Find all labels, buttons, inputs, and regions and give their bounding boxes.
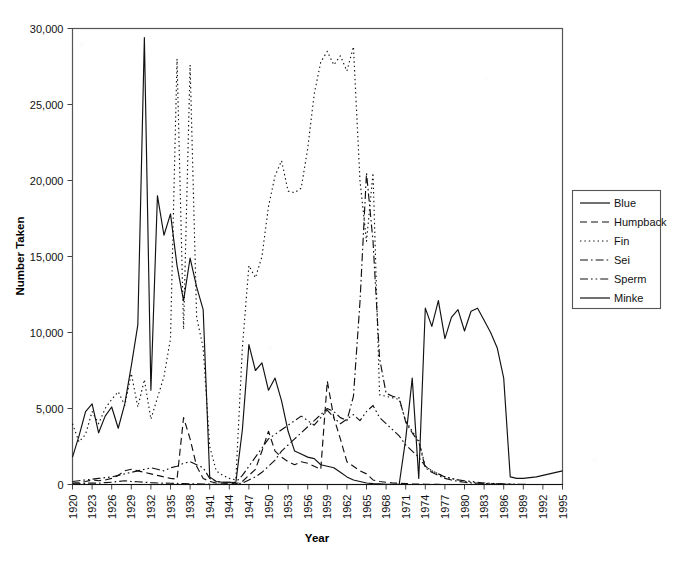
x-tick-label-20: 1980 (459, 495, 471, 519)
x-tick-label-14: 1962 (341, 495, 353, 519)
x-tick-label-24: 1992 (537, 495, 549, 519)
legend[interactable]: BlueHumpbackFinSeiSpermMinke (573, 191, 668, 309)
x-tick-label-15: 1965 (361, 495, 373, 519)
x-tick-label-21: 1983 (478, 495, 490, 519)
x-tick-label-25: 1995 (557, 495, 569, 519)
x-tick-label-19: 1977 (439, 495, 451, 519)
x-tick-label-7: 1941 (204, 495, 216, 519)
y-axis-ticks (68, 29, 73, 485)
x-tick-label-4: 1932 (145, 495, 157, 519)
x-axis-ticks (73, 485, 563, 490)
x-axis-title: Year (305, 532, 330, 544)
y-tick-label-0: 0 (57, 479, 63, 491)
x-tick-label-10: 1950 (263, 495, 275, 519)
legend-label-sei[interactable]: Sei (614, 254, 630, 266)
legend-label-minke[interactable]: Minke (614, 292, 643, 304)
x-tick-label-12: 1956 (302, 495, 314, 519)
series-line-minke (73, 301, 563, 485)
legend-label-fin[interactable]: Fin (614, 235, 629, 247)
x-tick-label-1: 1923 (86, 495, 98, 519)
x-tick-label-22: 1986 (498, 495, 510, 519)
y-tick-label-5: 25,000 (30, 99, 64, 111)
series-line-humpback (73, 381, 563, 484)
legend-label-blue[interactable]: Blue (614, 197, 636, 209)
x-tick-label-13: 1959 (321, 495, 333, 519)
legend-label-sperm[interactable]: Sperm (614, 273, 646, 285)
chart-canvas: 05,00010,00015,00020,00025,00030,000 192… (0, 0, 676, 561)
x-tick-label-5: 1935 (165, 495, 177, 519)
legend-label-humpback[interactable]: Humpback (614, 216, 667, 228)
y-axis-title: Number Taken (14, 216, 26, 295)
data-series-group (73, 38, 563, 485)
y-tick-label-3: 15,000 (30, 251, 64, 263)
x-tick-label-3: 1929 (125, 495, 137, 519)
y-tick-label-1: 5,000 (36, 403, 64, 415)
x-tick-label-2: 1926 (106, 495, 118, 519)
y-tick-label-6: 30,000 (30, 23, 64, 35)
x-tick-label-8: 1944 (223, 495, 235, 519)
x-tick-label-16: 1968 (380, 495, 392, 519)
y-tick-label-4: 20,000 (30, 175, 64, 187)
x-tick-label-6: 1938 (184, 495, 196, 519)
x-tick-label-18: 1974 (419, 495, 431, 519)
x-tick-label-17: 1971 (400, 495, 412, 519)
x-tick-label-11: 1953 (282, 495, 294, 519)
x-tick-label-0: 1920 (67, 495, 79, 519)
y-tick-label-2: 10,000 (30, 327, 64, 339)
x-tick-label-9: 1947 (243, 495, 255, 519)
whale-catch-line-chart: 05,00010,00015,00020,00025,00030,000 192… (0, 0, 676, 561)
x-axis-tick-labels: 1920192319261929193219351938194119441947… (67, 495, 569, 519)
x-tick-label-23: 1989 (517, 495, 529, 519)
y-axis-tick-labels: 05,00010,00015,00020,00025,00030,000 (30, 23, 64, 491)
